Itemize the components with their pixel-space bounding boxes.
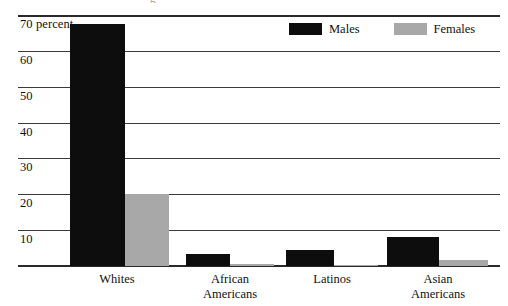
y-axis-label-50: 50 (20, 90, 33, 103)
y-axis-label-60: 60 (20, 54, 33, 67)
gridline-70 (18, 15, 500, 17)
bar-asian-americans-males (387, 237, 439, 266)
x-axis-label-latinos-line1: Latinos (313, 272, 351, 286)
x-axis-label-whites-line1: Whites (99, 272, 134, 286)
y-axis-label-40: 40 (20, 126, 33, 139)
chart-legend: Males Females (289, 20, 475, 38)
bar-asian-americans-females (439, 260, 488, 266)
y-axis-label-70: 70 percent (20, 18, 73, 31)
x-axis-label-latinos: Latinos (277, 272, 387, 287)
bar-whites-females (125, 194, 169, 266)
legend-label-females: Females (434, 23, 476, 36)
legend-swatch-males (289, 23, 322, 35)
legend-swatch-females (394, 23, 427, 35)
y-axis-label-10: 10 (20, 233, 33, 246)
x-axis-label-african-line1: African (211, 272, 249, 286)
y-axis-label-20: 20 (20, 197, 33, 210)
bar-whites-males (70, 24, 125, 266)
y-axis-label-30: 30 (20, 161, 33, 174)
legend-item-males: Males (289, 23, 360, 36)
legend-label-males: Males (329, 23, 360, 36)
cropped-title-remnant: g (150, 0, 158, 3)
legend-item-females: Females (394, 23, 476, 36)
bar-latinos-females (334, 265, 378, 266)
bar-african-americans-females (230, 264, 274, 266)
x-axis-label-asian-line2: Americans (383, 287, 493, 302)
bar-latinos-males (286, 250, 334, 266)
x-axis-label-african-line2: Americans (175, 287, 285, 302)
x-axis-label-whites: Whites (62, 272, 172, 287)
bar-chart: g 70 percent 60 50 40 30 20 10 Males Fem… (0, 0, 508, 306)
bar-african-americans-males (186, 254, 230, 266)
x-axis-label-african-americans: African Americans (175, 272, 285, 302)
x-axis-label-asian-americans: Asian Americans (383, 272, 493, 302)
x-axis-label-asian-line1: Asian (423, 272, 452, 286)
